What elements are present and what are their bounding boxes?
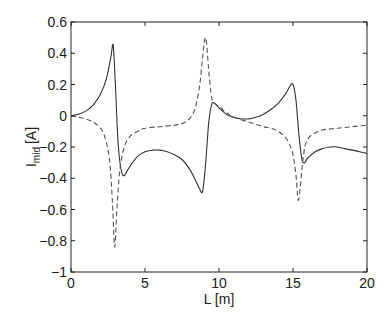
y-tick-label: −1 bbox=[51, 264, 67, 280]
y-tick-label: 0.2 bbox=[48, 77, 68, 93]
y-tick-label: 0.6 bbox=[48, 14, 68, 30]
plot-area-frame bbox=[71, 22, 367, 272]
y-tick-label: −0.4 bbox=[39, 170, 67, 186]
x-tick-label: 20 bbox=[359, 275, 375, 291]
axis-ticks bbox=[71, 22, 367, 272]
y-tick-label: −0.6 bbox=[39, 202, 67, 218]
y-tick-label: −0.8 bbox=[39, 233, 67, 249]
series-solid-line bbox=[71, 44, 367, 193]
x-axis-label: L [m] bbox=[204, 291, 235, 307]
plot-series bbox=[71, 37, 367, 247]
x-tick-label: 15 bbox=[285, 275, 301, 291]
y-tick-label: −0.2 bbox=[39, 139, 67, 155]
x-tick-label: 10 bbox=[211, 275, 227, 291]
y-axis-tick-labels: −1−0.8−0.6−0.4−0.200.20.40.6 bbox=[39, 14, 67, 280]
line-chart: 05101520 −1−0.8−0.6−0.4−0.200.20.40.6 L … bbox=[0, 0, 388, 316]
y-axis-label-subscript: mid bbox=[31, 147, 42, 163]
y-tick-label: 0 bbox=[59, 108, 67, 124]
x-tick-label: 0 bbox=[67, 275, 75, 291]
series-dashed-line bbox=[71, 37, 367, 247]
y-tick-label: 0.4 bbox=[48, 45, 68, 61]
x-axis-tick-labels: 05101520 bbox=[67, 275, 375, 291]
y-axis-label-unit: [A] bbox=[23, 127, 39, 144]
x-tick-label: 5 bbox=[141, 275, 149, 291]
